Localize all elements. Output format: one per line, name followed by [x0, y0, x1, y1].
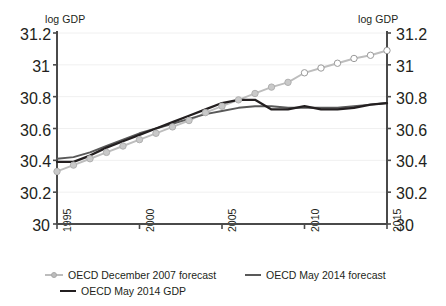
legend-item-3[interactable]: OECD May 2014 GDP — [60, 286, 186, 297]
plot-area — [0, 0, 446, 306]
data-point-marker — [301, 70, 307, 76]
data-point-marker — [318, 65, 324, 71]
data-point-marker — [202, 109, 208, 115]
data-point-marker — [186, 117, 192, 123]
data-point-marker — [54, 168, 60, 174]
data-point-marker — [334, 60, 340, 66]
legend-label: OECD December 2007 forecast — [68, 270, 216, 281]
data-point-marker — [136, 136, 142, 142]
legend-item-1[interactable]: OECD December 2007 forecast — [45, 270, 216, 281]
data-point-marker — [367, 52, 373, 58]
data-point-marker — [70, 162, 76, 168]
data-point-marker — [285, 79, 291, 85]
data-point-marker — [87, 156, 93, 162]
legend-swatch-icon — [45, 271, 63, 280]
data-point-marker — [219, 103, 225, 109]
legend-label: OECD May 2014 forecast — [266, 270, 386, 281]
data-point-marker — [153, 130, 159, 136]
chart-figure: log GDP log GDP 31.23130.830.630.430.230… — [0, 0, 446, 306]
data-point-marker — [384, 47, 390, 53]
data-point-marker — [120, 143, 126, 149]
data-point-marker — [103, 149, 109, 155]
data-point-marker — [169, 124, 175, 130]
data-point-marker — [252, 90, 258, 96]
data-point-marker — [268, 84, 274, 90]
legend-label: OECD May 2014 GDP — [81, 286, 186, 297]
legend-item-2[interactable]: OECD May 2014 forecast — [245, 270, 386, 281]
data-point-marker — [235, 97, 241, 103]
data-point-marker — [351, 55, 357, 61]
legend-swatch-icon — [245, 274, 261, 276]
legend-swatch-icon — [60, 290, 76, 292]
